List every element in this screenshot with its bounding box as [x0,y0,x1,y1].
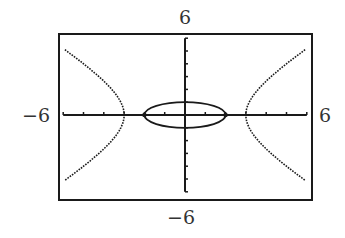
y-min-label: −6 [167,208,195,227]
x-min-label: −6 [22,106,50,125]
intersection-point [142,113,146,117]
y-max-label: 6 [179,8,191,27]
intersection-point [223,113,227,117]
axes [63,38,307,192]
x-max-label: 6 [319,106,331,125]
graph-plot [0,0,345,238]
